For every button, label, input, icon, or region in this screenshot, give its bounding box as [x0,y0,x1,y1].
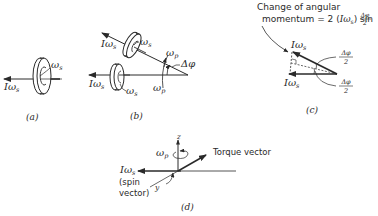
title-frac-den: 2 [362,19,367,26]
y-axis-label: y [154,183,160,192]
half-angle-upper-num: Δφ [340,49,351,57]
spin-note-line-2: vector) [119,188,149,198]
title-line-2: momentum = 2 (Iωs) sin [262,14,373,25]
half-angle-lower-den: 2 [343,87,348,95]
z-axis-label: z [176,133,181,141]
spin-vector-label: Iωs [119,164,136,177]
panel-b-caption: (b) [130,111,143,121]
panel-b: Iωs ωs Iωs ωs ωp ωp Δφ (b) [88,30,195,121]
upper-vector-arrow [293,52,337,74]
lower-disk [110,64,124,90]
angular-momentum-label: Iωs [3,81,20,94]
half-angle-upper-den: 2 [343,58,348,66]
lower-angular-momentum-label: Iωs [88,78,105,91]
upper-angular-momentum-label: Iωs [100,38,117,51]
pointer-arrow [262,26,288,52]
rotation-icon [173,151,188,159]
panel-c: Change of angular momentum = 2 (Iωs) sin… [257,2,373,115]
panel-c-caption: (c) [306,105,319,115]
gyroscope-precession-diagram: Iωs ωs (a) Iω [0,0,378,216]
upper-spin-label: ωs [140,36,152,49]
upper-vector-label: Iωs [290,39,307,52]
torque-label: Torque vector [212,147,271,157]
panel-a: Iωs ωs (a) [3,58,63,122]
lower-vector-label: Iωs [283,77,300,90]
panel-d: z y ωp Torque vector Iωs (spin vector) (… [119,133,271,212]
lower-spin-label: ωs [126,85,138,98]
spinning-disk [33,58,51,94]
precession-lower-label: ωp [153,82,166,95]
precession-upper-label: ωp [166,47,179,60]
precession-label: ωp [156,147,169,160]
panel-a-caption: (a) [26,112,39,122]
title-frac-num: Δφ [360,11,370,19]
panel-d-caption: (d) [181,202,194,212]
spin-note-line-1: (spin [119,177,140,187]
torque-vector-arrow [178,155,206,171]
spin-label: ωs [51,59,63,72]
half-angle-lower-num: Δφ [340,78,351,86]
delta-phi-label: Δφ [180,58,195,69]
title-line-1: Change of angular [257,2,341,12]
